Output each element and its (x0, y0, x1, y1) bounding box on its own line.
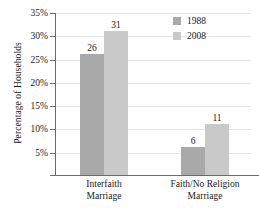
bar-1988-2: 6 (181, 147, 205, 175)
legend-label-1988: 1988 (187, 16, 206, 26)
y-tick-30% (50, 36, 55, 37)
plot-area: 5%10%15%20%25%30%35% 2631611 (55, 13, 251, 176)
y-tick-15% (50, 106, 55, 107)
gridline-30% (56, 36, 251, 37)
bar-2008-1: 31 (104, 31, 128, 175)
gridline-35% (56, 13, 251, 14)
y-tick-10% (50, 129, 55, 130)
y-tick-25% (50, 60, 55, 61)
y-tick-label-10%: 10% (31, 124, 48, 134)
cropped-title-artifact (60, 0, 180, 6)
legend-swatch-1988 (173, 17, 181, 25)
y-tick-label-15%: 15% (31, 101, 48, 111)
bar-1988-1: 26 (80, 54, 104, 175)
bar-value-label: 6 (191, 136, 196, 146)
y-tick-label-20%: 20% (31, 78, 48, 88)
y-tick-35% (50, 13, 55, 14)
x-axis-line (50, 175, 259, 176)
bar-2008-2: 11 (205, 124, 229, 175)
y-axis-title: Percentage of Households (13, 18, 23, 168)
x-category-line: Marriage (145, 191, 259, 203)
legend-item-1988: 1988 (173, 14, 206, 27)
y-tick-5% (50, 153, 55, 154)
y-axis-line (55, 13, 56, 176)
legend: 1988 2008 (173, 14, 206, 44)
bar-value-label: 26 (87, 43, 97, 53)
legend-swatch-2008 (173, 32, 181, 40)
y-tick-label-35%: 35% (31, 8, 48, 18)
y-tick-label-5%: 5% (35, 148, 48, 158)
bar-value-label: 11 (212, 113, 221, 123)
y-tick-label-25%: 25% (31, 55, 48, 65)
legend-item-2008: 2008 (173, 29, 206, 42)
y-tick-label-30%: 30% (31, 31, 48, 41)
x-category-line: Faith/No Religion (145, 179, 259, 191)
y-tick-20% (50, 83, 55, 84)
x-category-label-2: Faith/No ReligionMarriage (145, 179, 259, 202)
legend-label-2008: 2008 (187, 31, 206, 41)
bar-value-label: 31 (111, 20, 121, 30)
bar-chart: Percentage of Households 5%10%15%20%25%3… (0, 0, 259, 208)
